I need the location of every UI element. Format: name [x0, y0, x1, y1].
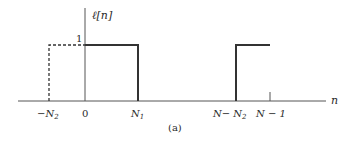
main-pulse	[85, 45, 138, 101]
repeat-pulse	[236, 45, 270, 101]
figure-caption: (a)	[168, 122, 182, 133]
tick-label-zero: 0	[82, 108, 88, 119]
dashed-pulse-segment	[49, 45, 85, 101]
tick-label-n-minus-n2: N− N2	[212, 108, 247, 121]
y-axis-label: ℓ[n]	[92, 9, 113, 22]
tick-label-n1: N1	[130, 108, 144, 121]
tick-label-neg-n2: −N2	[37, 108, 59, 121]
tick-label-n-minus-1: N − 1	[255, 108, 286, 119]
x-axis-label: n	[331, 94, 338, 107]
figure-canvas: ℓ[n] 1 n −N2 0 N1 N− N2 N − 1 (a)	[0, 0, 353, 144]
level-one-label: 1	[76, 33, 82, 44]
